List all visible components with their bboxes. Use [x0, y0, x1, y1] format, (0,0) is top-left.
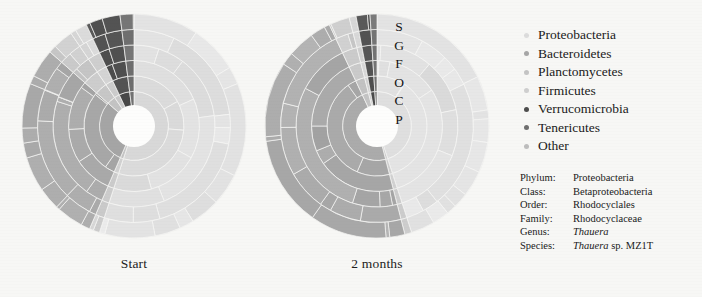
taxonomy-rank-label: Species:	[520, 240, 573, 251]
rank-letter-p: P	[395, 111, 403, 130]
sunburst-segment	[133, 14, 134, 29]
taxonomy-row: Class:Betaproteobacteria	[520, 186, 653, 200]
legend-swatch-icon	[524, 51, 529, 56]
legend-item-other: Other	[524, 137, 629, 156]
legend-item-tenericutes: Tenericutes	[524, 119, 629, 138]
legend-item-label: Other	[538, 138, 569, 154]
rank-letter-o: O	[394, 74, 404, 93]
taxonomy-rank-value: Betaproteobacteria	[573, 186, 652, 197]
rank-letter-f: F	[395, 55, 403, 74]
sunburst-segment	[120, 14, 133, 30]
taxonomy-rank-label: Genus:	[520, 226, 573, 237]
taxonomy-row: Family:Rhodocyclaceae	[520, 213, 653, 227]
sunburst-segment	[370, 14, 377, 30]
sunburst-segment	[280, 103, 298, 127]
sunburst-segment	[22, 128, 39, 143]
legend-item-firmicutes: Firmicutes	[524, 82, 629, 101]
taxonomy-detail-list: Phylum:ProteobacteriaClass:Betaproteobac…	[520, 172, 653, 254]
taxonomy-row: Order:Rhodocyclales	[520, 199, 653, 213]
sunburst-chart-start	[14, 8, 254, 253]
rank-letter-column: SGFOCP	[389, 18, 409, 130]
legend-swatch-icon	[524, 70, 529, 75]
sunburst-segment	[360, 204, 401, 222]
legend-item-verrucomicrobia: Verrucomicrobia	[524, 100, 629, 119]
legend-swatch-icon	[524, 144, 529, 149]
legend-swatch-icon	[524, 88, 529, 93]
legend-item-label: Bacteroidetes	[538, 46, 611, 62]
panel-caption-start: Start	[14, 256, 254, 272]
taxonomy-rank-label: Phylum:	[520, 172, 573, 183]
sunburst-segment	[124, 45, 134, 61]
taxonomy-rank-label: Family:	[520, 213, 573, 224]
rank-letter-c: C	[394, 92, 403, 111]
figure-root: Start 2 months SGFOCP ProteobacteriaBact…	[0, 0, 702, 297]
taxonomy-rank-value: Proteobacteria	[573, 172, 634, 183]
legend-item-planctomycetes: Planctomycetes	[524, 63, 629, 82]
sunburst-center-hole	[113, 105, 155, 147]
legend-swatch-icon	[524, 33, 529, 38]
taxonomy-row: Phylum:Proteobacteria	[520, 172, 653, 186]
legend-item-label: Tenericutes	[538, 120, 600, 136]
sunburst-segment	[371, 29, 377, 45]
legend-item-label: Planctomycetes	[538, 64, 623, 80]
sunburst-segment	[472, 119, 489, 143]
taxonomy-row: Species:Thauera sp. MZ1T	[520, 240, 653, 254]
panel-caption-2months: 2 months	[254, 256, 500, 272]
legend-item-label: Firmicutes	[538, 83, 596, 99]
legend-item-bacteroidetes: Bacteroidetes	[524, 45, 629, 64]
sunburst-svg-start	[14, 8, 254, 253]
taxonomy-rank-value: Rhodocyclales	[573, 199, 635, 210]
sunburst-segment	[122, 29, 134, 45]
rank-letter-g: G	[394, 37, 404, 56]
sunburst-segment	[114, 174, 152, 192]
sunburst-segment	[372, 45, 377, 61]
sunburst-chart-2months	[254, 8, 500, 253]
legend-item-proteobacteria: Proteobacteria	[524, 26, 629, 45]
legend-item-label: Proteobacteria	[538, 27, 616, 43]
sunburst-segment	[373, 60, 377, 76]
taxonomy-rank-label: Order:	[520, 199, 573, 210]
taxonomy-rank-value: Thauera sp. MZ1T	[573, 240, 653, 251]
taxonomy-rank-value: Thauera	[573, 226, 609, 237]
taxonomy-row: Genus:Thauera	[520, 226, 653, 240]
rank-letter-s: S	[395, 18, 403, 37]
taxonomy-rank-label: Class:	[520, 186, 573, 197]
phylum-legend: ProteobacteriaBacteroidetesPlanctomycete…	[524, 26, 629, 156]
legend-swatch-icon	[524, 125, 529, 130]
legend-item-label: Verrucomicrobia	[538, 101, 629, 117]
taxonomy-rank-value: Rhodocyclaceae	[573, 213, 642, 224]
sunburst-segment	[214, 114, 230, 128]
sunburst-svg-2months	[254, 8, 500, 253]
legend-swatch-icon	[524, 107, 529, 112]
